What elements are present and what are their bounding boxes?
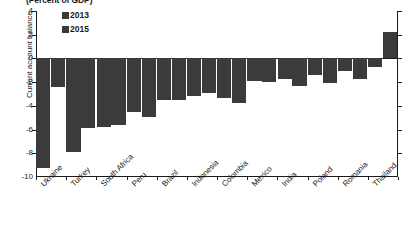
bar-mexico-2015 xyxy=(262,58,276,82)
bar-ukraine-2013 xyxy=(36,58,50,167)
bar-group xyxy=(127,11,157,177)
x-axis-tick-mark xyxy=(398,177,399,180)
bar-turkey-2015 xyxy=(81,58,95,128)
current-account-balance-chart: (Percent of GDP) Current account balance… xyxy=(0,0,403,227)
y-axis-tick-label: -10 xyxy=(21,173,33,181)
x-axis-tick-mark xyxy=(187,177,188,180)
bar-colombia-2015 xyxy=(232,58,246,103)
bar-thailand-2013 xyxy=(368,58,382,66)
bar-group xyxy=(157,11,187,177)
bar-group xyxy=(187,11,217,177)
bar-poland-2015 xyxy=(323,58,337,83)
y-axis-tick-mark-right xyxy=(398,106,402,107)
bar-indonesia-2013 xyxy=(187,58,201,96)
bar-turkey-2013 xyxy=(66,58,80,152)
bar-peru-2015 xyxy=(142,58,156,116)
bar-india-2013 xyxy=(278,58,292,78)
bar-romania-2015 xyxy=(353,58,367,78)
x-axis-tick-mark xyxy=(157,177,158,180)
bar-south-africa-2013 xyxy=(97,58,111,127)
x-axis-tick-mark xyxy=(217,177,218,180)
bar-poland-2013 xyxy=(308,58,322,75)
y-axis-tick-mark-right xyxy=(398,11,402,12)
x-axis-tick-mark xyxy=(66,177,67,180)
bar-group xyxy=(66,11,96,177)
bar-brazil-2013 xyxy=(157,58,171,100)
x-axis-tick-mark xyxy=(96,177,97,180)
bar-romania-2013 xyxy=(338,58,352,71)
bar-india-2015 xyxy=(292,58,306,85)
x-axis-tick-mark xyxy=(127,177,128,180)
y-axis-tick-mark-right xyxy=(398,130,402,131)
bar-peru-2013 xyxy=(127,58,141,111)
bar-group xyxy=(277,11,307,177)
y-axis-tick-mark-right xyxy=(398,58,402,59)
bar-group xyxy=(36,11,66,177)
bar-mexico-2013 xyxy=(247,58,261,81)
bar-south-africa-2015 xyxy=(111,58,125,124)
bar-group xyxy=(247,11,277,177)
x-axis-tick-mark xyxy=(247,177,248,180)
y-axis-tick-mark-right xyxy=(398,153,402,154)
bar-group xyxy=(96,11,126,177)
x-axis-tick-mark xyxy=(338,177,339,180)
x-axis-tick-mark xyxy=(308,177,309,180)
bar-thailand-2015 xyxy=(383,32,397,58)
bar-group xyxy=(338,11,368,177)
chart-title: (Percent of GDP) xyxy=(26,0,92,5)
bar-colombia-2013 xyxy=(217,58,231,97)
bar-group xyxy=(368,11,398,177)
bar-brazil-2015 xyxy=(172,58,186,100)
plot-area: 420-2-4-6-8-10 xyxy=(36,11,398,177)
bar-indonesia-2015 xyxy=(202,58,216,92)
x-axis-tick-mark xyxy=(277,177,278,180)
x-axis-tick-mark xyxy=(368,177,369,180)
y-axis-tick-mark-right xyxy=(398,35,402,36)
bar-group xyxy=(217,11,247,177)
y-axis-tick-mark-right xyxy=(398,82,402,83)
x-axis-tick-mark xyxy=(36,177,37,180)
bar-group xyxy=(308,11,338,177)
bar-ukraine-2015 xyxy=(51,58,65,86)
